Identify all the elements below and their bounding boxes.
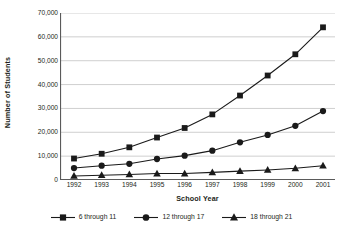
chart-figure: Number of Students 010,00020,00030,00040… <box>0 0 343 228</box>
x-tick-label: 1992 <box>67 182 82 189</box>
y-axis-tick-labels: 010,00020,00030,00040,00050,00060,00070,… <box>14 0 58 228</box>
x-axis-title: School Year <box>60 194 335 203</box>
data-point-circle <box>292 123 298 129</box>
y-tick-label: 60,000 <box>16 34 58 41</box>
legend-marker-square-icon <box>51 212 75 223</box>
legend-label: 12 through 17 <box>162 214 204 221</box>
y-tick-label: 0 <box>16 177 58 184</box>
series-1 <box>71 24 326 161</box>
data-point-circle <box>237 139 243 145</box>
x-tick-label: 1993 <box>94 182 109 189</box>
x-tick-label: 1996 <box>177 182 192 189</box>
data-point-circle <box>126 161 132 167</box>
data-point-square <box>182 125 188 131</box>
series-line <box>74 27 323 158</box>
y-tick-label: 10,000 <box>16 153 58 160</box>
x-axis-tick-labels: 1992199319941995199619971998199920002001 <box>60 182 335 194</box>
data-point-square <box>99 151 105 157</box>
data-point-square <box>320 24 326 30</box>
x-tick-label: 2000 <box>288 182 303 189</box>
series-line <box>74 111 323 168</box>
data-point-square <box>154 135 160 141</box>
data-point-circle <box>265 132 271 138</box>
data-point-triangle <box>230 213 238 220</box>
data-point-circle <box>99 163 105 169</box>
y-tick-label: 30,000 <box>16 105 58 112</box>
y-axis-title-text: Number of Students <box>4 57 13 128</box>
legend-marker-triangle-icon <box>222 212 246 223</box>
data-point-circle <box>143 214 150 221</box>
legend-item-2[interactable]: 12 through 17 <box>134 212 204 223</box>
x-tick-label: 1999 <box>260 182 275 189</box>
x-tick-label: 1994 <box>122 182 137 189</box>
series-line <box>74 166 323 176</box>
data-point-square <box>209 111 215 117</box>
y-tick-label: 40,000 <box>16 81 58 88</box>
chart-legend: 6 through 1112 through 1718 through 21 <box>0 209 343 225</box>
legend-label: 6 through 11 <box>79 214 117 221</box>
data-point-square <box>237 93 243 99</box>
x-tick-label: 2001 <box>316 182 331 189</box>
data-point-circle <box>154 156 160 162</box>
data-point-square <box>71 156 77 162</box>
data-point-circle <box>182 153 188 159</box>
data-point-square <box>292 51 298 57</box>
legend-marker-circle-icon <box>134 212 158 223</box>
series-3 <box>70 162 327 179</box>
y-tick-label: 70,000 <box>16 10 58 17</box>
x-tick-label: 1997 <box>205 182 220 189</box>
series-2 <box>71 108 326 171</box>
plot-area <box>60 13 335 180</box>
data-point-square <box>60 214 66 220</box>
data-point-circle <box>209 148 215 154</box>
data-point-triangle <box>319 162 327 169</box>
legend-label: 18 through 21 <box>250 214 292 221</box>
legend-item-3[interactable]: 18 through 21 <box>222 212 292 223</box>
x-tick-label: 1995 <box>150 182 165 189</box>
y-tick-label: 50,000 <box>16 57 58 64</box>
data-point-square <box>265 73 271 79</box>
data-point-circle <box>71 165 77 171</box>
data-point-circle <box>320 108 326 114</box>
plot-svg <box>60 13 335 180</box>
legend-item-1[interactable]: 6 through 11 <box>51 212 117 223</box>
y-tick-label: 20,000 <box>16 129 58 136</box>
x-tick-label: 1998 <box>233 182 248 189</box>
data-point-square <box>126 144 132 150</box>
